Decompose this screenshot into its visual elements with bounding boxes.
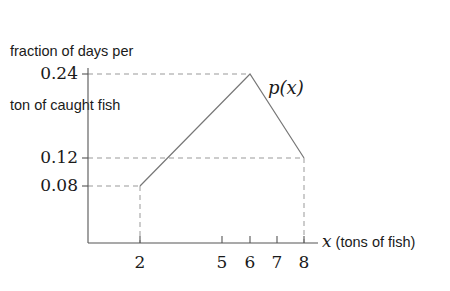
x-axis-title: x (tons of fish) <box>322 231 415 251</box>
x-tick-label-6: 6 <box>239 252 261 272</box>
guide-lines <box>88 74 304 243</box>
y-axis-ticks <box>82 74 88 186</box>
x-tick-label-8: 8 <box>293 252 315 272</box>
x-axis-ticks <box>140 236 304 243</box>
curve-label-px: p(x) <box>268 77 304 98</box>
x-axis-title-variable: x <box>322 231 332 251</box>
y-tick-label-008: 0.08 <box>14 175 78 195</box>
probability-density-figure: fraction of days per ton of caught fish <box>0 0 450 291</box>
y-tick-label-024: 0.24 <box>14 63 78 83</box>
x-axis-title-text: (tons of fish) <box>332 234 416 250</box>
y-tick-label-012: 0.12 <box>14 147 78 167</box>
x-tick-label-7: 7 <box>266 252 288 272</box>
x-tick-label-2: 2 <box>129 252 151 272</box>
x-tick-label-5: 5 <box>211 252 233 272</box>
